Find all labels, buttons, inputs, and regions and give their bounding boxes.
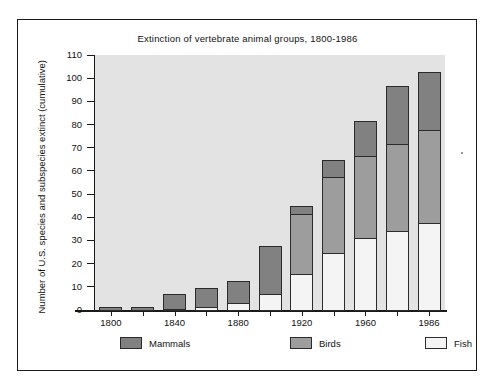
x-axis-tick-label: 1800 [91,317,131,328]
y-axis-tick [87,147,94,148]
y-axis-tick [87,170,94,171]
legend-item-mammals[interactable]: Mammals [120,335,190,351]
y-axis-tick-label: 70 [52,142,82,153]
speck-mark [461,152,463,154]
bar-segment-mammals [227,281,250,304]
bar-segment-mammals [259,246,282,295]
bar-group [227,55,250,310]
y-axis-line [94,55,96,311]
y-axis-tick [87,124,94,125]
bar-segment-mammals [386,86,409,145]
y-axis-tick-label: 100 [52,72,82,83]
bar-segment-birds [386,144,409,232]
legend-item-fish[interactable]: Fish [425,335,472,351]
bar-segment-fish [418,223,441,311]
x-axis-tick [143,311,144,316]
x-axis-tick [175,311,176,316]
bar-segment-mammals [163,294,186,310]
x-axis-tick-label: 1960 [345,317,385,328]
bar-segment-birds [322,177,345,255]
bar-segment-fish [290,274,313,311]
legend-item-birds[interactable]: Birds [290,335,341,351]
bar-segment-birds [354,156,377,239]
bar-group [290,55,313,310]
bar-segment-birds [290,214,313,275]
y-axis-label: Number of U.S. species and subspecies ex… [36,64,47,314]
y-axis-tick-label: 10 [52,281,82,292]
y-axis-tick-label: 30 [52,234,82,245]
bar-group [418,55,441,310]
bar-group [163,55,186,310]
bar-segment-mammals [290,206,313,215]
bar-group [131,55,154,310]
bar-segment-mammals [322,160,345,177]
x-axis-tick-label: 1986 [409,317,449,328]
y-axis-tick-label: 50 [52,188,82,199]
y-axis-tick [87,78,94,79]
x-axis-tick [111,311,112,316]
y-axis-tick-label: 90 [52,95,82,106]
x-axis-tick [429,311,430,316]
bar-group [99,55,122,310]
legend-swatch-birds [290,337,312,349]
bar-group [322,55,345,310]
bar-group [354,55,377,310]
bar-segment-fish [227,303,250,311]
bar-segment-fish [259,294,282,311]
bar-group [195,55,218,310]
chart-title: Extinction of vertebrate animal groups, … [0,33,495,44]
x-axis-tick-label: 1920 [282,317,322,328]
y-axis-tick [87,263,94,264]
figure-canvas: Extinction of vertebrate animal groups, … [0,0,495,389]
y-axis-tick-label: 40 [52,211,82,222]
x-axis-tick [334,311,335,316]
chart-legend: MammalsBirdsFish [40,335,460,357]
y-axis-tick [87,101,94,102]
bar-segment-mammals [354,121,377,157]
bar-segment-mammals [195,288,218,308]
x-axis-tick [365,311,366,316]
x-axis-tick-label: 1880 [218,317,258,328]
legend-label: Birds [319,338,341,349]
x-axis-tick [206,311,207,316]
legend-swatch-fish [425,337,447,349]
y-axis-tick [87,310,94,311]
bar-segment-fish [386,231,409,311]
bar-group [386,55,409,310]
x-axis-tick [302,311,303,316]
bar-segment-mammals [131,307,154,311]
bar-segment-fish [354,238,377,311]
y-axis-tick-label: 0 [52,304,82,315]
y-axis-tick [87,217,94,218]
legend-swatch-mammals [120,337,142,349]
bar-segment-mammals [99,307,122,311]
bar-segment-birds [418,130,441,224]
legend-label: Mammals [149,338,190,349]
x-axis-tick [397,311,398,316]
x-axis-tick-label: 1840 [155,317,195,328]
x-axis-tick [270,311,271,316]
y-axis-tick [87,194,94,195]
bar-segment-fish [322,253,345,311]
x-axis-tick [238,311,239,316]
y-axis-tick [87,240,94,241]
y-axis-tick-label: 110 [52,49,82,60]
y-axis-tick [87,55,94,56]
y-axis-tick-label: 60 [52,165,82,176]
legend-label: Fish [454,338,472,349]
bar-group [259,55,282,310]
y-axis-tick [87,286,94,287]
y-axis-tick-label: 20 [52,258,82,269]
y-axis-tick-label: 80 [52,119,82,130]
bar-segment-mammals [418,72,441,131]
